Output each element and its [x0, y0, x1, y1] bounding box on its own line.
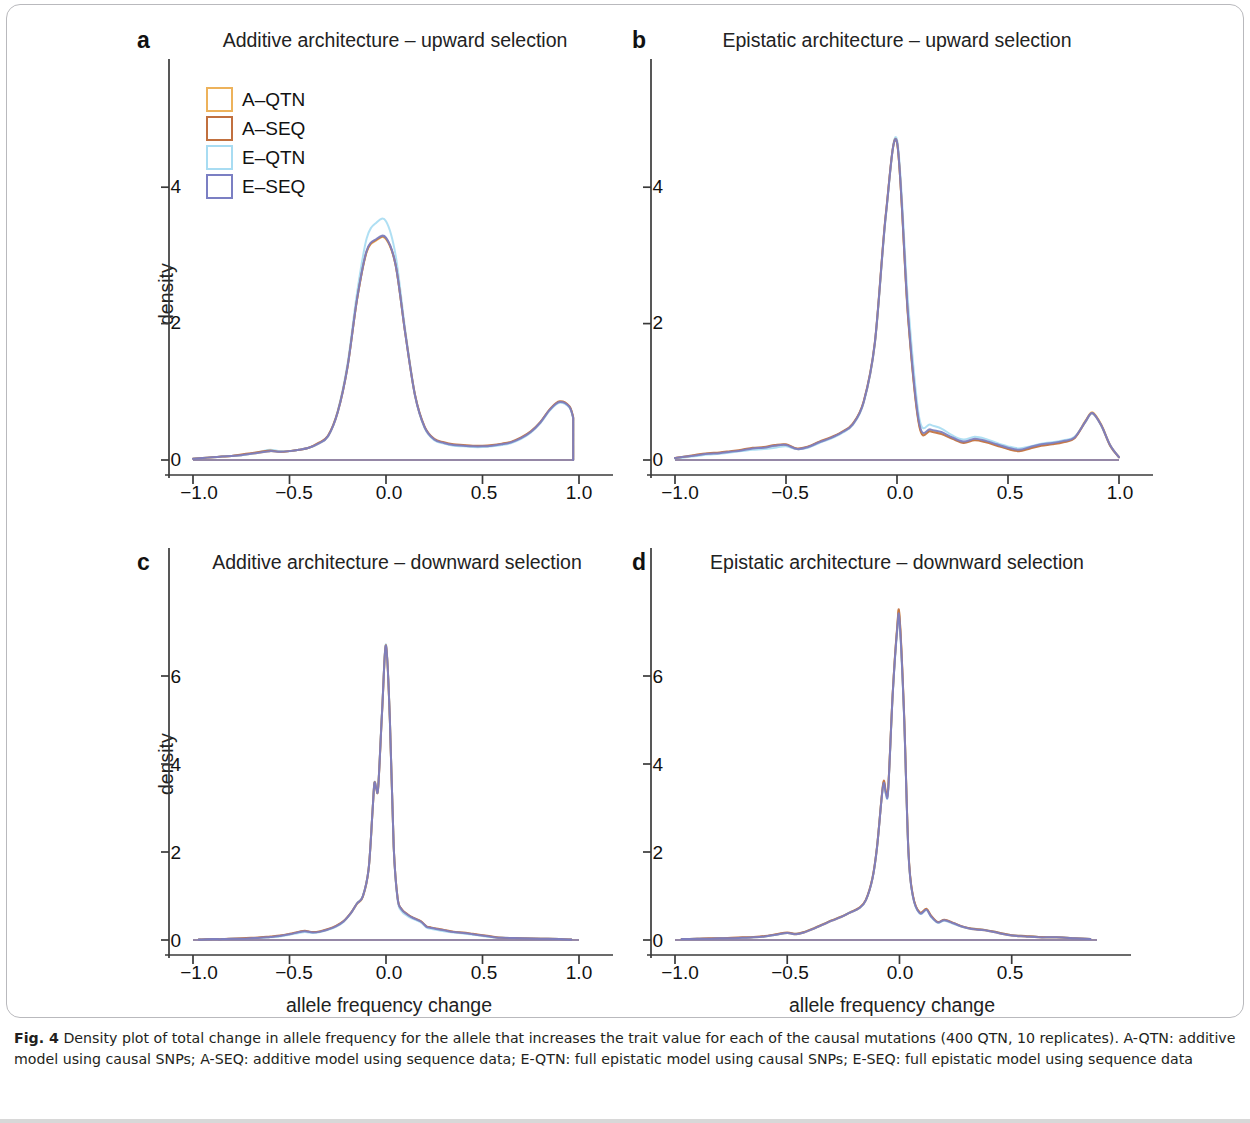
figure-frame: a Additive architecture – upward selecti…	[6, 4, 1244, 1018]
caption-label: Fig. 4	[14, 1030, 59, 1046]
caption-text: Density plot of total change in allele f…	[14, 1030, 1235, 1067]
panel-b: b Epistatic architecture – upward select…	[517, 5, 1157, 515]
panel-d: d Epistatic architecture – downward sele…	[517, 520, 1157, 1020]
panel-d-plot	[517, 520, 1157, 1020]
bottom-rule	[0, 1119, 1250, 1123]
panel-b-plot	[517, 5, 1157, 515]
figure-caption: Fig. 4 Density plot of total change in a…	[14, 1028, 1240, 1070]
